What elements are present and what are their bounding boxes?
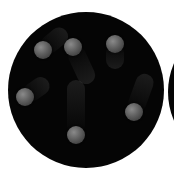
sphere bbox=[125, 103, 143, 121]
sphere bbox=[64, 38, 82, 56]
sphere bbox=[67, 126, 85, 144]
sphere bbox=[34, 41, 52, 59]
sphere bbox=[106, 35, 124, 53]
partial-disc bbox=[168, 20, 174, 164]
sphere bbox=[16, 88, 34, 106]
main-disc bbox=[8, 12, 164, 168]
